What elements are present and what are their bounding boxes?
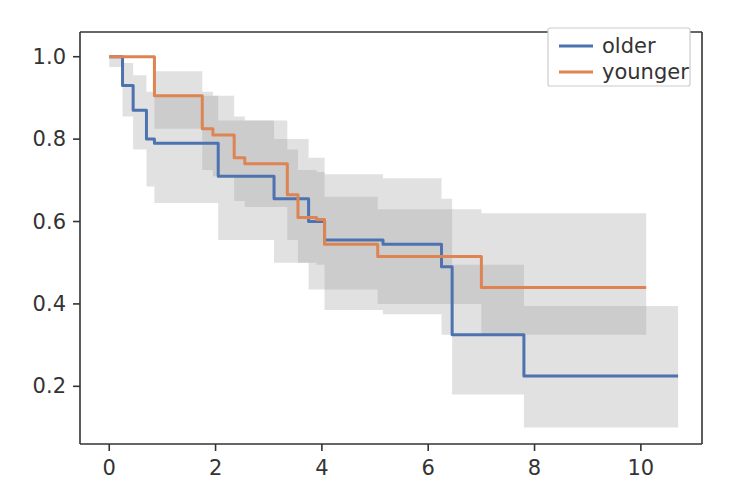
figure-canvas: 0246810 0.20.40.60.81.0 olderyounger xyxy=(0,0,738,503)
y-tick-label: 0.6 xyxy=(33,210,66,234)
x-tick-label: 10 xyxy=(627,456,654,480)
x-tick-label: 8 xyxy=(528,456,541,480)
y-tick-label: 1.0 xyxy=(33,45,66,69)
legend-label-younger: younger xyxy=(602,60,689,84)
y-tick-label: 0.4 xyxy=(33,292,66,316)
x-axis-ticks: 0246810 xyxy=(103,444,655,480)
x-tick-label: 2 xyxy=(209,456,222,480)
x-tick-label: 4 xyxy=(315,456,328,480)
x-tick-label: 6 xyxy=(422,456,435,480)
y-tick-label: 0.2 xyxy=(33,374,66,398)
y-axis-ticks: 0.20.40.60.81.0 xyxy=(33,45,80,399)
chart-legend[interactable]: olderyounger xyxy=(548,28,690,86)
survival-chart: 0246810 0.20.40.60.81.0 olderyounger xyxy=(0,0,738,503)
legend-label-older: older xyxy=(602,34,656,58)
x-tick-label: 0 xyxy=(103,456,116,480)
y-tick-label: 0.8 xyxy=(33,127,66,151)
